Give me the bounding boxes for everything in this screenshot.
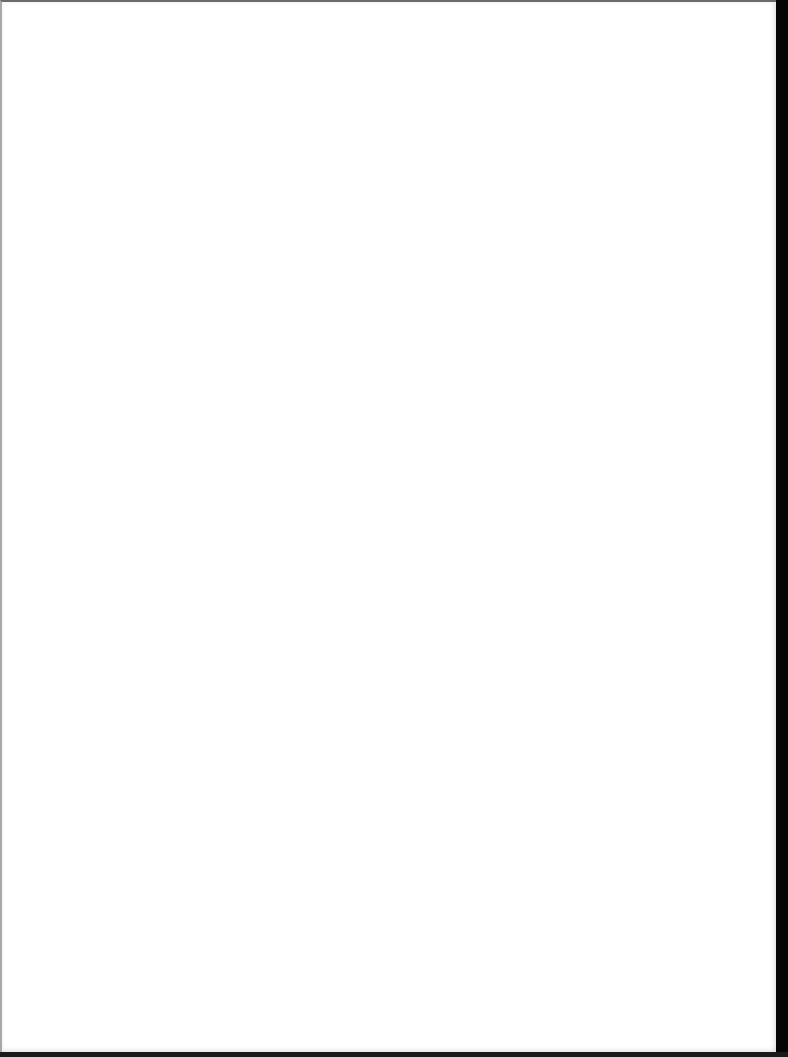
scanner-right-border	[776, 0, 788, 1057]
scan-background	[0, 0, 788, 1057]
blank-page	[0, 0, 776, 1052]
scanner-bottom-border	[0, 1052, 788, 1057]
